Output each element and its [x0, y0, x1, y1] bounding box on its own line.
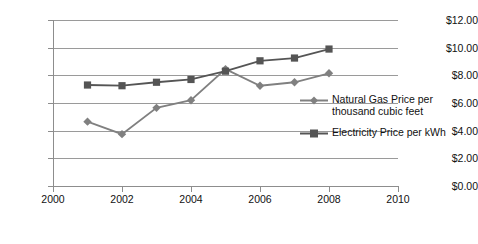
line-chart: $12.00 $10.00 $8.00 $6.00 $4.00 $2.00 $0… — [0, 0, 478, 244]
data-point — [83, 117, 91, 125]
data-point — [256, 82, 264, 90]
data-point — [222, 68, 229, 75]
data-point — [118, 82, 125, 89]
data-point — [153, 79, 160, 86]
legend-label-natural-gas: Natural Gas Price per thousand cubic fee… — [332, 93, 472, 117]
data-point — [325, 69, 333, 77]
legend-item-natural-gas[interactable]: Natural Gas Price per thousand cubic fee… — [300, 93, 472, 117]
square-marker-icon — [300, 128, 328, 139]
data-point — [84, 81, 91, 88]
legend-item-electricity[interactable]: Electricity Price per kWh — [300, 126, 472, 139]
data-point — [256, 57, 263, 64]
legend-label-electricity: Electricity Price per kWh — [332, 126, 472, 138]
data-point — [291, 54, 298, 61]
diamond-marker-icon — [300, 95, 328, 106]
data-point — [290, 78, 298, 86]
chart-legend: Natural Gas Price per thousand cubic fee… — [300, 93, 472, 148]
data-point — [187, 76, 194, 83]
data-point — [325, 45, 332, 52]
series-line — [88, 69, 330, 134]
